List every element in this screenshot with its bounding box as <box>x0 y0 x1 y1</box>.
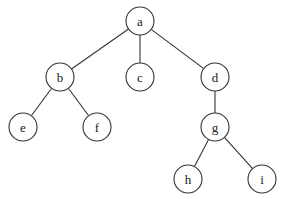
node-label: h <box>185 172 192 187</box>
edge-g-h <box>194 139 208 166</box>
node-i: i <box>248 165 276 193</box>
edge-b-e <box>31 88 51 115</box>
node-h: h <box>174 165 202 193</box>
edge-a-d <box>151 29 204 68</box>
tree-diagram: abcdefghi <box>0 0 284 199</box>
nodes-layer: abcdefghi <box>9 7 276 193</box>
edges-layer <box>31 29 252 169</box>
node-label: a <box>137 14 143 29</box>
node-label: c <box>137 70 143 85</box>
node-e: e <box>9 113 37 141</box>
node-label: i <box>260 172 264 187</box>
node-label: g <box>212 120 219 135</box>
node-b: b <box>46 63 74 91</box>
node-label: b <box>57 70 64 85</box>
node-a: a <box>126 7 154 35</box>
node-label: d <box>212 70 219 85</box>
node-d: d <box>201 63 229 91</box>
node-label: f <box>95 120 100 135</box>
node-f: f <box>83 113 111 141</box>
edge-g-i <box>224 137 252 168</box>
node-label: e <box>20 120 26 135</box>
edge-a-b <box>71 29 128 69</box>
node-c: c <box>126 63 154 91</box>
node-g: g <box>201 113 229 141</box>
edge-b-f <box>68 88 88 115</box>
